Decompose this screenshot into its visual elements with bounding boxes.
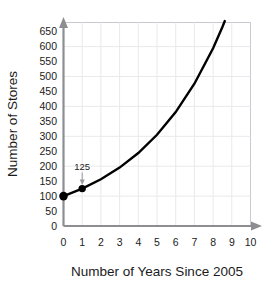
y-tick-label: 200 [39, 160, 57, 172]
x-tick-label: 9 [229, 236, 235, 248]
x-tick-label: 6 [173, 236, 179, 248]
x-tick-label: 0 [61, 236, 67, 248]
y-tick-label: 250 [39, 145, 57, 157]
exponential-growth-chart: 0 50 100 150 200 250 300 350 400 450 500… [0, 0, 274, 288]
y-tick-label: 100 [39, 190, 57, 202]
y-tick-label: 300 [39, 130, 57, 142]
y-tick-label: 400 [39, 100, 57, 112]
chart-container: 0 50 100 150 200 250 300 350 400 450 500… [0, 0, 274, 288]
y-tick-label: 50 [45, 205, 57, 217]
y-tick-label: 650 [39, 25, 57, 37]
y-tick-label: 0 [51, 220, 57, 232]
data-point-125 [79, 185, 86, 192]
x-tick-label: 7 [191, 236, 197, 248]
x-tick-label: 5 [154, 236, 160, 248]
annotation-label: 125 [74, 161, 90, 172]
data-point-origin [59, 192, 68, 201]
y-tick-label: 600 [39, 40, 57, 52]
y-tick-label: 350 [39, 115, 57, 127]
y-tick-label: 150 [39, 175, 57, 187]
y-tick-label: 450 [39, 85, 57, 97]
x-tick-label: 10 [245, 236, 257, 248]
y-tick-label: 550 [39, 55, 57, 67]
x-tick-label: 2 [98, 236, 104, 248]
x-tick-label: 1 [79, 236, 85, 248]
x-tick-label: 4 [135, 236, 141, 248]
x-tick-label: 8 [210, 236, 216, 248]
x-tick-label: 3 [117, 236, 123, 248]
y-tick-label: 500 [39, 70, 57, 82]
x-axis-title: Number of Years Since 2005 [71, 264, 243, 279]
y-axis-title: Number of Stores [5, 71, 20, 177]
